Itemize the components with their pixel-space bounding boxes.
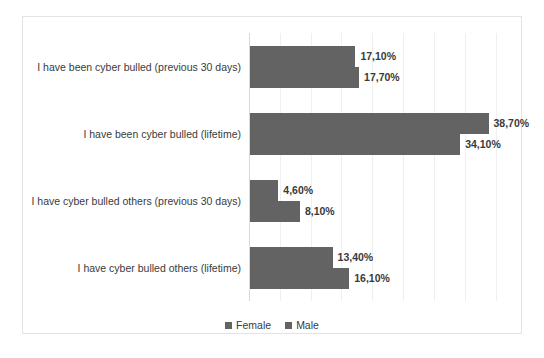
bar-group: I have been cyber bulled (previous 30 da… — [249, 46, 514, 88]
bar-value-label: 17,70% — [364, 67, 400, 88]
plot-area: I have been cyber bulled (previous 30 da… — [249, 33, 514, 301]
bar-group: I have cyber bulled others (previous 30 … — [249, 180, 514, 222]
bar-value-label: 4,60% — [283, 180, 313, 201]
bar-female[interactable] — [250, 46, 355, 67]
bar-value-label: 34,10% — [465, 134, 501, 155]
bar-female[interactable] — [250, 247, 333, 268]
bar-female[interactable] — [250, 180, 278, 201]
legend-label: Male — [296, 319, 319, 331]
category-axis-label: I have been cyber bulled (lifetime) — [11, 113, 241, 155]
bar-group: I have cyber bulled others (lifetime)13,… — [249, 247, 514, 289]
legend-label: Female — [236, 319, 271, 331]
bar-male[interactable] — [250, 268, 349, 289]
category-axis-label: I have cyber bulled others (previous 30 … — [11, 180, 241, 222]
category-axis-label: I have cyber bulled others (lifetime) — [11, 247, 241, 289]
bar-value-label: 8,10% — [305, 201, 335, 222]
chart-legend: Female Male — [23, 319, 521, 331]
bar-female[interactable] — [250, 113, 489, 134]
legend-item-male[interactable]: Male — [285, 319, 319, 331]
bar-value-label: 16,10% — [354, 268, 390, 289]
chart-frame: I have been cyber bulled (previous 30 da… — [22, 16, 522, 334]
legend-swatch-icon — [285, 322, 292, 329]
legend-swatch-icon — [225, 322, 232, 329]
bar-male[interactable] — [250, 201, 300, 222]
bar-male[interactable] — [250, 134, 460, 155]
bar-value-label: 17,10% — [360, 46, 396, 67]
bar-male[interactable] — [250, 67, 359, 88]
bar-value-label: 13,40% — [338, 247, 374, 268]
legend-item-female[interactable]: Female — [225, 319, 271, 331]
category-axis-label: I have been cyber bulled (previous 30 da… — [11, 46, 241, 88]
bar-value-label: 38,70% — [494, 113, 530, 134]
bar-group: I have been cyber bulled (lifetime)38,70… — [249, 113, 514, 155]
